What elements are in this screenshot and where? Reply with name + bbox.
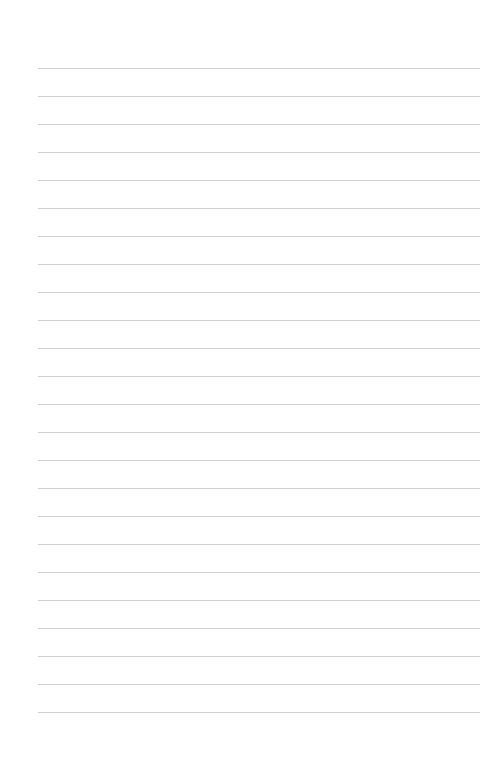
ruled-line (38, 572, 480, 573)
ruled-line (38, 68, 480, 69)
ruled-line (38, 152, 480, 153)
ruled-line (38, 376, 480, 377)
ruled-line (38, 600, 480, 601)
ruled-line (38, 488, 480, 489)
ruled-line (38, 208, 480, 209)
ruled-line (38, 656, 480, 657)
ruled-line (38, 124, 480, 125)
ruled-line (38, 292, 480, 293)
ruled-line (38, 684, 480, 685)
ruled-line (38, 432, 480, 433)
ruled-line (38, 712, 480, 713)
ruled-line (38, 628, 480, 629)
ruled-line (38, 96, 480, 97)
lined-paper-page (0, 0, 498, 776)
ruled-line (38, 348, 480, 349)
ruled-line (38, 236, 480, 237)
ruled-line (38, 544, 480, 545)
ruled-line (38, 516, 480, 517)
ruled-line (38, 404, 480, 405)
ruled-line (38, 264, 480, 265)
ruled-line (38, 460, 480, 461)
ruled-line (38, 320, 480, 321)
ruled-line (38, 180, 480, 181)
